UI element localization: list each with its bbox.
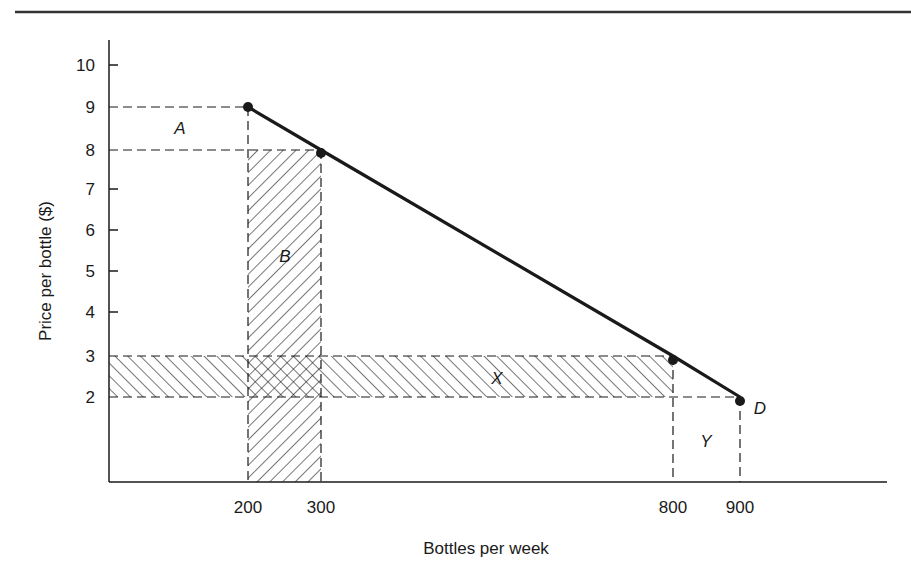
y-tick-10: 10 — [76, 56, 95, 75]
y-tick-2: 2 — [86, 388, 95, 407]
point-300-8 — [316, 148, 326, 158]
region-x-label: X — [490, 369, 503, 388]
y-ticks — [109, 65, 118, 312]
x-tick-200: 200 — [234, 498, 262, 517]
x-tick-800: 800 — [659, 498, 687, 517]
y-tick-labels: 10 9 8 7 6 5 4 3 2 — [76, 56, 95, 407]
region-a-label: A — [173, 119, 185, 138]
x-tick-900: 900 — [726, 498, 754, 517]
x-axis-title: Bottles per week — [423, 539, 549, 558]
guide-lines — [109, 107, 740, 482]
region-b-hatch — [248, 150, 321, 482]
y-tick-6: 6 — [86, 221, 95, 240]
x-tick-labels: 200 300 800 900 — [234, 498, 754, 517]
point-900-2 — [735, 396, 745, 406]
x-tick-300: 300 — [307, 498, 335, 517]
curve-d-label: D — [754, 399, 766, 418]
y-tick-8: 8 — [86, 141, 95, 160]
y-axis-title: Price per bottle ($) — [36, 201, 55, 341]
region-x-hatch — [109, 356, 673, 397]
y-tick-9: 9 — [86, 98, 95, 117]
y-tick-4: 4 — [86, 303, 95, 322]
region-b-label: B — [279, 247, 290, 266]
y-tick-5: 5 — [86, 262, 95, 281]
y-tick-3: 3 — [86, 347, 95, 366]
point-200-9 — [243, 102, 253, 112]
point-800-3 — [668, 355, 678, 365]
region-y-label: Y — [700, 432, 713, 451]
demand-chart: 10 9 8 7 6 5 4 3 2 200 300 800 900 Bottl… — [0, 0, 911, 580]
y-tick-7: 7 — [86, 180, 95, 199]
